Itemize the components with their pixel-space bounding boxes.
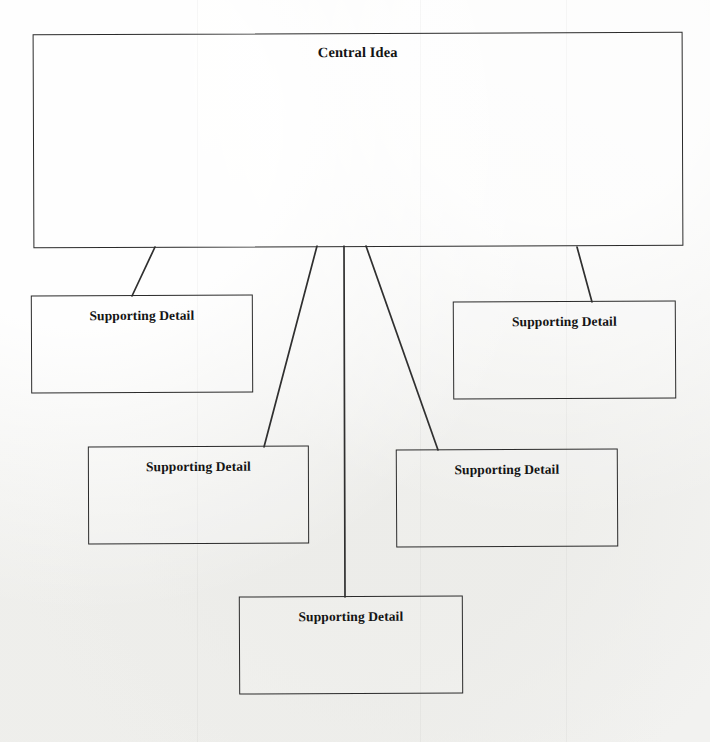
supporting-detail-label-3: Supporting Detail [89, 459, 308, 476]
connector-central-to-detail-1 [132, 247, 155, 296]
central-idea-label: Central Idea [34, 43, 682, 62]
supporting-detail-box-3[interactable]: Supporting Detail [88, 446, 309, 545]
supporting-detail-label-4: Supporting Detail [397, 461, 617, 478]
worksheet-page: Central Idea Supporting Detail Supportin… [0, 0, 710, 742]
connector-central-to-detail-2 [577, 247, 592, 302]
supporting-detail-box-5[interactable]: Supporting Detail [239, 596, 463, 695]
supporting-detail-label-2: Supporting Detail [454, 313, 675, 330]
connector-central-to-detail-3 [264, 246, 317, 447]
supporting-detail-box-1[interactable]: Supporting Detail [31, 295, 253, 394]
supporting-detail-box-4[interactable]: Supporting Detail [396, 448, 619, 547]
connector-central-to-detail-5 [344, 246, 345, 597]
connector-central-to-detail-4 [366, 246, 438, 450]
central-idea-box[interactable]: Central Idea [33, 32, 684, 248]
supporting-detail-label-1: Supporting Detail [32, 308, 252, 325]
supporting-detail-box-2[interactable]: Supporting Detail [453, 300, 677, 399]
supporting-detail-label-5: Supporting Detail [240, 609, 462, 626]
